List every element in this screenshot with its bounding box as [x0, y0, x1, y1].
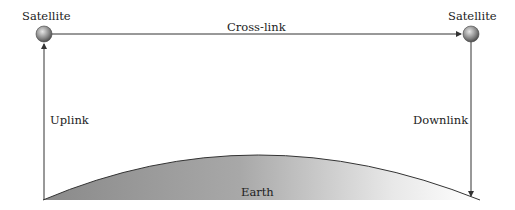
downlink-label: Downlink [413, 113, 468, 127]
satellite-right-label: Satellite [448, 9, 497, 23]
satellite-left-label: Satellite [22, 9, 71, 23]
earth-label: Earth [241, 185, 274, 199]
satellite-right-icon [463, 26, 479, 42]
satellite-left-icon [36, 26, 52, 42]
uplink-label: Uplink [50, 113, 89, 127]
crosslink-label: Cross-link [227, 20, 286, 34]
